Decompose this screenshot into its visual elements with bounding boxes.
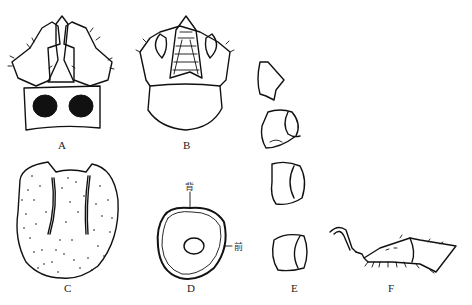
panel-label-b: B xyxy=(183,139,190,151)
figure-drawings xyxy=(0,0,472,305)
panel-b-drawing xyxy=(136,16,234,130)
panel-d-drawing xyxy=(158,192,232,279)
panel-label-a: A xyxy=(58,139,66,151)
panel-e-drawing xyxy=(258,62,307,271)
panel-c-drawing xyxy=(17,162,118,278)
panel-label-d: D xyxy=(187,282,195,294)
panel-a-drawing xyxy=(8,16,114,130)
annotation-anterior: 前 xyxy=(234,240,243,253)
annotation-dorsal: 背 xyxy=(185,180,194,193)
figure: A B C D E F 背 前 xyxy=(0,0,472,305)
panel-f-drawing xyxy=(330,227,456,273)
panel-label-e: E xyxy=(291,282,298,294)
panel-label-c: C xyxy=(64,282,71,294)
panel-label-f: F xyxy=(388,282,394,294)
